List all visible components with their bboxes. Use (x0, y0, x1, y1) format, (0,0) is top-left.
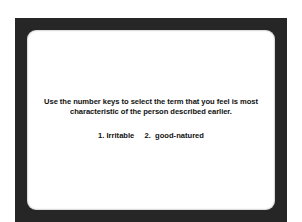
option-label: Irritable (106, 131, 134, 140)
option-label: good-natured (155, 131, 204, 140)
instruction-text: Use the number keys to select the term t… (27, 97, 275, 116)
instruction-line-1: Use the number keys to select the term t… (27, 97, 275, 107)
response-options: 1. Irritable 2. good-natured (27, 131, 275, 140)
monitor-frame: Use the number keys to select the term t… (15, 18, 287, 222)
instruction-line-2: characteristic of the person described e… (27, 107, 275, 117)
option-key: 2. (144, 131, 150, 140)
display-screen: Use the number keys to select the term t… (27, 30, 275, 210)
option-key: 1. (98, 131, 104, 140)
option-irritable[interactable]: 1. Irritable (98, 131, 134, 140)
option-good-natured[interactable]: 2. good-natured (144, 131, 204, 140)
